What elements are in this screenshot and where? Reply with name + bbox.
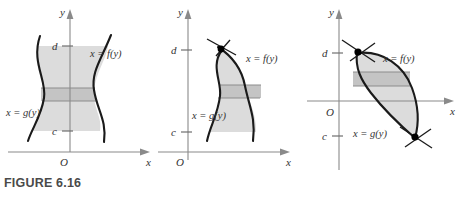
- origin-label: O: [60, 156, 68, 168]
- curve-g-label: x = g(y): [5, 107, 40, 119]
- y-axis: [185, 9, 192, 160]
- intersection-point: [218, 46, 225, 53]
- y-axis: [336, 9, 343, 170]
- representative-strip: [41, 88, 96, 101]
- panel-region-one-intersection: y x O d c x = f(y) x = g(y): [150, 0, 305, 175]
- tick-label-c: c: [171, 126, 176, 138]
- axis-y-label: y: [177, 6, 183, 18]
- shaded-region: [357, 53, 418, 136]
- curve-f-label: x = f(y): [382, 53, 415, 65]
- panel-region-two-intersections: y x O d c x = f(y) x = g(y): [295, 0, 470, 175]
- figure-caption: FIGURE 6.16: [4, 176, 81, 190]
- axis-x-label: x: [285, 156, 291, 168]
- curve-g-label: x = g(y): [191, 110, 226, 122]
- axis-x-label: x: [449, 105, 455, 117]
- representative-strip: [218, 85, 261, 98]
- tick-label-c: c: [52, 125, 57, 137]
- tick-label-c: c: [322, 130, 327, 142]
- curve-f-label: x = f(y): [89, 48, 122, 60]
- figure-6-16: y x O d c x = f(y) x = g(y): [0, 0, 470, 199]
- tick-label-d: d: [171, 44, 177, 56]
- x-axis: [8, 149, 150, 156]
- origin-label: O: [326, 106, 334, 118]
- x-axis: [158, 149, 290, 156]
- axis-y-label: y: [328, 6, 334, 18]
- panel-region-no-intersection: y x O d c x = f(y) x = g(y): [0, 0, 160, 175]
- curve-f-label: x = f(y): [245, 53, 278, 65]
- curve-g-label: x = g(y): [352, 128, 387, 140]
- tick-label-d: d: [52, 40, 58, 52]
- intersection-point-upper: [354, 48, 361, 55]
- intersection-point-lower: [411, 133, 418, 140]
- tick-label-d: d: [322, 47, 328, 59]
- axis-y-label: y: [59, 6, 65, 18]
- origin-label: O: [176, 156, 184, 168]
